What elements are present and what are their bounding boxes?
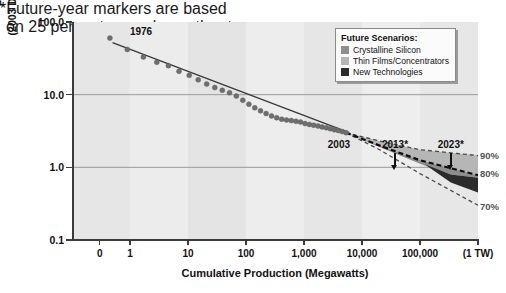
legend-item: Thin Films/Concentrators — [341, 56, 449, 66]
x-tick-label: 10,000 — [347, 248, 378, 259]
x-tick-label: 1,000 — [291, 248, 316, 259]
annotation-1976: 1976 — [130, 26, 152, 37]
year-marker-2013star: 2013* — [382, 139, 408, 150]
legend-swatch-icon — [341, 57, 349, 65]
year-marker-2003: 2003 — [328, 139, 350, 150]
year-marker-2023star: 2023* — [438, 139, 464, 150]
footnote-line1: *Future-year markers are based — [0, 0, 227, 17]
legend-item-label: Thin Films/Concentrators — [353, 56, 449, 66]
x-tick-label: 1 — [127, 248, 133, 259]
percent-label-80: 80% — [480, 168, 499, 179]
legend-items: Crystalline SiliconThin Films/Concentrat… — [341, 45, 449, 77]
y-tick — [66, 21, 72, 23]
y-tick-label: 10.0 — [20, 89, 64, 101]
y-axis-label-line2: (2003 Dollars per Peak Watt) — [6, 0, 18, 40]
legend: Future Scenarios: Crystalline SiliconThi… — [335, 28, 456, 82]
x-tick — [129, 239, 131, 245]
x-tick — [187, 239, 189, 245]
pv-module-price-experience-curve-chart: PV Module Price (2003 Dollars per Peak W… — [0, 0, 506, 293]
x-tick-label: 10 — [182, 248, 193, 259]
percent-label-70: 70% — [480, 201, 499, 212]
y-axis-label: PV Module Price (2003 Dollars per Peak W… — [0, 0, 18, 40]
x-tick-label: 100,000 — [402, 248, 438, 259]
x-tick — [245, 239, 247, 245]
legend-item: Crystalline Silicon — [341, 45, 449, 55]
y-tick — [66, 239, 72, 241]
y-axis-line — [72, 22, 74, 240]
y-tick-label: 1.0 — [20, 161, 64, 173]
x-tick — [303, 239, 305, 245]
year-marker-arrowhead — [391, 165, 397, 170]
x-tick-label: 0 — [97, 248, 103, 259]
y-tick-label: 100.0 — [20, 16, 64, 28]
y-tick — [66, 167, 72, 169]
x-axis-label: Cumulative Production (Megawatts) — [72, 267, 478, 279]
legend-title: Future Scenarios: — [341, 33, 449, 43]
legend-swatch-icon — [341, 68, 349, 76]
year-marker-arrowhead — [447, 165, 453, 170]
x-tick — [419, 239, 421, 245]
percent-label-90: 90% — [480, 150, 499, 161]
y-tick-label: 0.1 — [20, 234, 64, 246]
x-tick-label: 100 — [238, 248, 255, 259]
legend-item-label: New Technologies — [353, 67, 423, 77]
x-axis-line — [72, 239, 478, 241]
x-tick-label: (1 TW) — [463, 248, 494, 259]
y-tick — [66, 94, 72, 96]
x-tick — [361, 239, 363, 245]
legend-swatch-icon — [341, 46, 349, 54]
legend-item-label: Crystalline Silicon — [353, 45, 421, 55]
x-tick — [477, 239, 479, 245]
x-tick — [99, 239, 101, 245]
legend-item: New Technologies — [341, 67, 449, 77]
